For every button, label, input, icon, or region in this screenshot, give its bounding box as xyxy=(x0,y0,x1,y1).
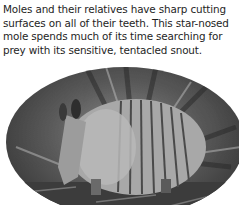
paragraph-line: surfaces on all of their teeth. This sta… xyxy=(3,17,239,31)
armadillo-illustration xyxy=(6,67,239,205)
paragraph: Moles and their relatives have sharp cut… xyxy=(3,3,239,57)
armadillo-photo xyxy=(6,67,239,205)
paragraph-line: mole spends much of its time searching f… xyxy=(3,30,239,44)
paragraph-line: prey with its sensitive, tentacled snout… xyxy=(3,44,239,58)
paragraph-line: Moles and their relatives have sharp cut… xyxy=(3,3,239,17)
